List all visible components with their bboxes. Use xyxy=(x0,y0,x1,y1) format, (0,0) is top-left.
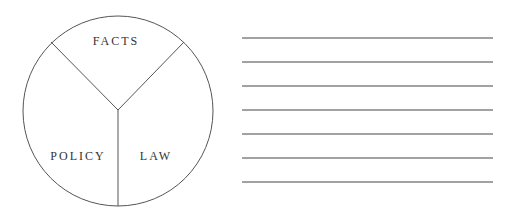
segment-label-policy: POLICY xyxy=(50,149,105,163)
writing-lines xyxy=(242,38,493,182)
divider-upper-right xyxy=(118,42,184,110)
segment-label-law: LAW xyxy=(140,149,172,163)
diagram-canvas: FACTS POLICY LAW xyxy=(0,0,517,223)
three-part-circle-diagram: FACTS POLICY LAW xyxy=(23,16,213,206)
segment-label-facts: FACTS xyxy=(93,34,139,48)
divider-upper-left xyxy=(51,42,118,110)
